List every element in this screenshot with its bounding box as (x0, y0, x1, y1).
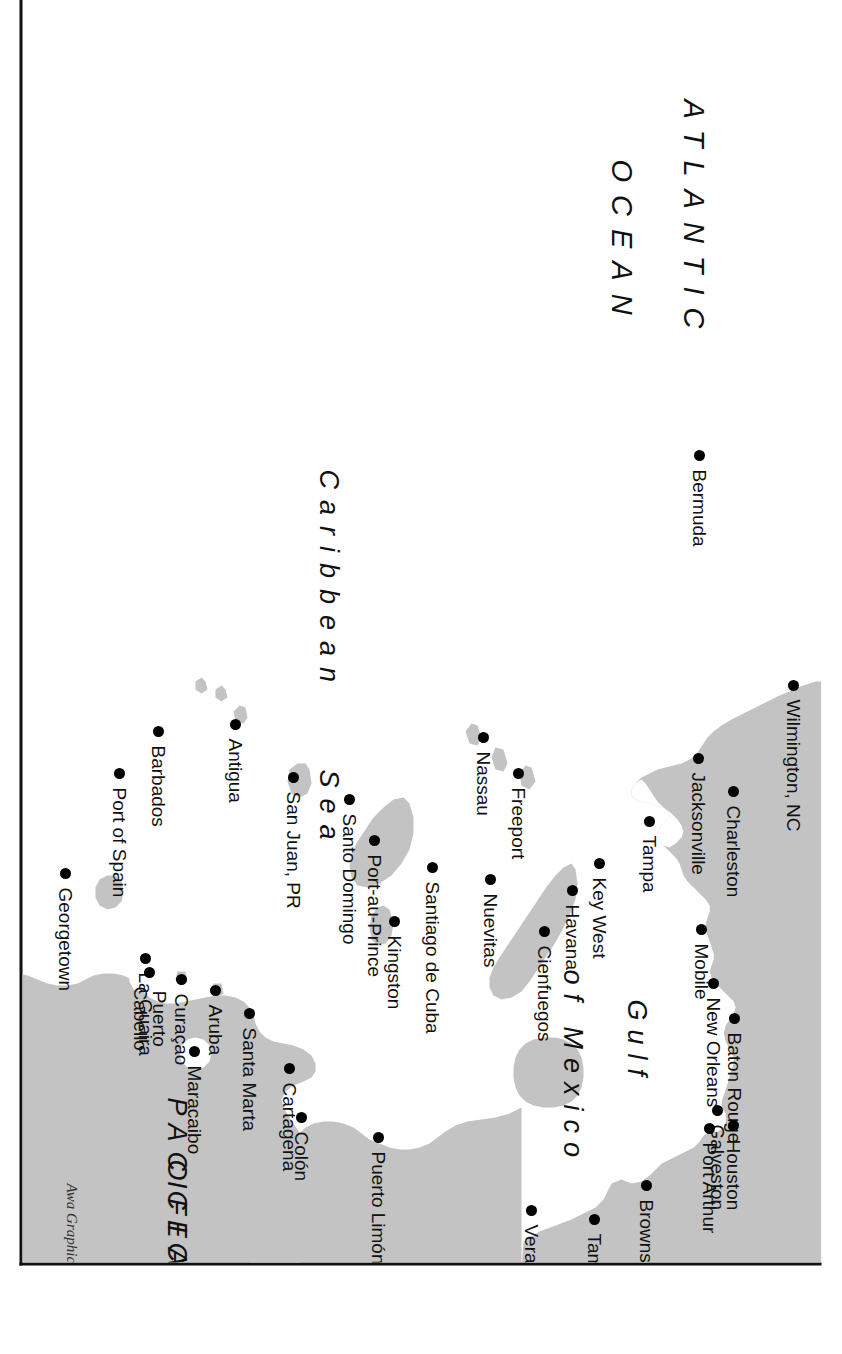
city-dot-port-arthur[interactable] (704, 1123, 715, 1134)
city-dot-tampa[interactable] (644, 816, 655, 827)
city-dot-georgetown[interactable] (60, 868, 71, 879)
city-dot-galveston[interactable] (712, 1105, 723, 1116)
city-dot-cartagena[interactable] (284, 1063, 295, 1074)
city-label-san-juan-pr: San Juan, PR (284, 792, 304, 909)
city-label-curacao: Curaçao (172, 994, 192, 1066)
city-dot-cienfuegos[interactable] (539, 926, 550, 937)
city-label-georgetown: Georgetown (56, 888, 76, 992)
city-label-puerto-cabello: PuertoCabello (131, 987, 169, 1051)
city-dot-curacao[interactable] (176, 974, 187, 985)
city-label-nassau: Nassau (474, 752, 494, 816)
label-gulf-line1: Gulf (621, 1000, 652, 1086)
map-page: ATLANTIC OCEAN Caribbean Sea Gulf of Mex… (0, 0, 842, 1354)
label-atlantic-ocean-line2: OCEAN (605, 160, 638, 328)
city-dot-kingston[interactable] (389, 916, 400, 927)
city-dot-charleston[interactable] (728, 786, 739, 797)
city-label-veracruz: Veracruz (522, 1225, 542, 1266)
city-dot-new-orleans[interactable] (708, 978, 719, 989)
city-label-puerto-limon: Puerto Limón (369, 1152, 389, 1265)
city-label-kingston: Kingston (385, 936, 405, 1010)
city-label-charleston: Charleston (724, 806, 744, 898)
city-dot-san-juan-pr[interactable] (288, 772, 299, 783)
city-dot-jacksonville[interactable] (693, 753, 704, 764)
city-dot-barbados[interactable] (153, 726, 164, 737)
city-label-port-of-spain: Port of Spain (110, 788, 130, 898)
map-canvas: ATLANTIC OCEAN Caribbean Sea Gulf of Mex… (23, 0, 822, 1263)
city-label-freeport: Freeport (509, 788, 529, 860)
city-label-cienfuegos: Cienfuegos (535, 946, 555, 1042)
city-label-nuevitas: Nuevitas (481, 894, 501, 968)
city-label-mobile: Mobile (692, 944, 712, 1000)
city-label-port-au-prince: Port-au-Prince (365, 855, 385, 978)
city-dot-santa-marta[interactable] (244, 1008, 255, 1019)
city-label-jacksonville: Jacksonville (689, 773, 709, 875)
city-dot-antigua[interactable] (230, 719, 241, 730)
city-label-wilmington-nc: Wilmington, NC (784, 700, 804, 832)
city-label-brownsville: Brownsville (637, 1200, 657, 1266)
city-dot-santo-domingo[interactable] (344, 794, 355, 805)
city-label-tampa: Tampa (640, 836, 660, 893)
city-label-bermuda: Bermuda (690, 470, 710, 547)
city-dot-baton-rouge[interactable] (729, 1013, 740, 1024)
city-label-barbados: Barbados (149, 746, 169, 827)
city-label-key-west: Key West (590, 878, 610, 959)
city-dot-bermuda[interactable] (694, 450, 705, 461)
city-dot-puerto-limon[interactable] (373, 1132, 384, 1143)
city-label-havana: Havana (563, 905, 583, 971)
city-label-port-arthur: Port Arthur (700, 1143, 720, 1234)
city-dot-port-of-spain[interactable] (114, 768, 125, 779)
label-gulf-line2: of Mexico (557, 970, 588, 1167)
city-label-santiago-de-cuba: Santiago de Cuba (423, 882, 443, 1034)
label-atlantic-ocean-line1: ATLANTIC (677, 100, 710, 342)
city-label-santa-marta: Santa Marta (240, 1028, 260, 1132)
map-credit: Awa Graphics (63, 1184, 80, 1266)
city-dot-brownsville[interactable] (641, 1180, 652, 1191)
label-pacific-ocean-line2: OCEAN (161, 1160, 192, 1266)
city-dot-freeport[interactable] (513, 768, 524, 779)
city-dot-santiago-de-cuba[interactable] (427, 862, 438, 873)
city-dot-port-au-prince[interactable] (369, 835, 380, 846)
city-label-colon: Colón (292, 1132, 312, 1182)
city-dot-wilmington-nc[interactable] (788, 680, 799, 691)
city-dot-houston[interactable] (728, 1120, 739, 1131)
city-label-tampico: Tampico (585, 1234, 605, 1266)
city-dot-key-west[interactable] (594, 858, 605, 869)
city-label-houston: Houston (724, 1140, 744, 1211)
city-label-new-orleans: New Orleans (704, 998, 724, 1108)
lesser-antilles-islands (196, 678, 248, 724)
city-label-maracaibo: Maracaibo (185, 1066, 205, 1155)
city-dot-aruba[interactable] (210, 985, 221, 996)
city-dot-mobile[interactable] (696, 924, 707, 935)
city-label-antigua: Antigua (226, 739, 246, 803)
map-frame: ATLANTIC OCEAN Caribbean Sea Gulf of Mex… (20, 0, 822, 1266)
city-dot-colon[interactable] (296, 1112, 307, 1123)
label-caribbean-sea-line1: Caribbean (313, 470, 344, 694)
city-label-santo-domingo: Santo Domingo (340, 814, 360, 945)
city-label-aruba: Aruba (206, 1005, 226, 1056)
city-dot-nuevitas[interactable] (485, 874, 496, 885)
city-dot-tampico[interactable] (589, 1214, 600, 1225)
city-dot-nassau[interactable] (478, 732, 489, 743)
city-dot-veracruz[interactable] (526, 1205, 537, 1216)
city-dot-la-guaira[interactable] (140, 953, 151, 964)
city-dot-havana[interactable] (567, 885, 578, 896)
city-dot-puerto-cabello[interactable] (144, 967, 155, 978)
city-dot-maracaibo[interactable] (189, 1046, 200, 1057)
